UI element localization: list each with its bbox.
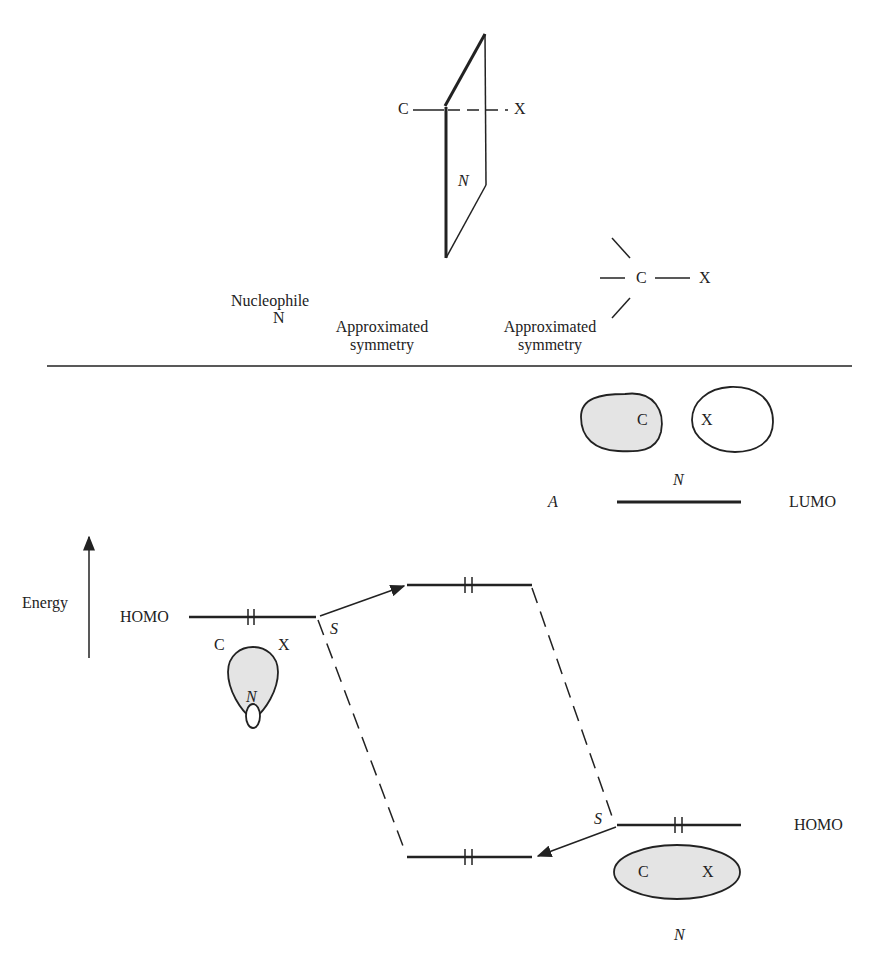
nucleophile-label: Nucleophile <box>231 292 309 310</box>
tetrahedral-center: C <box>636 269 647 287</box>
tetrahedral-leaving: X <box>699 269 711 287</box>
lumo-symmetry-label: N <box>673 471 684 489</box>
lumo-label: LUMO <box>789 493 836 511</box>
lumo-atom-c: C <box>637 411 648 429</box>
lower-interaction-label: S <box>594 810 602 828</box>
upper-interaction-arrow <box>320 586 404 616</box>
left-orbital-label: N <box>246 688 257 706</box>
symmetry-label-2: Approximated symmetry <box>490 318 610 354</box>
mo-diagram-canvas <box>0 0 871 955</box>
left-orbital-atom-c: C <box>214 636 225 654</box>
correlation-lines <box>318 588 614 854</box>
energy-axis-label: Energy <box>22 594 68 612</box>
plane-atom-x: X <box>514 100 526 118</box>
right-homo-orbital <box>614 845 740 899</box>
plane-atom-c: C <box>398 100 409 118</box>
upper-combined-level <box>407 577 532 593</box>
symmetry-plane <box>413 34 508 258</box>
right-homo-label: HOMO <box>794 816 843 834</box>
lumo-orbitals <box>581 387 773 452</box>
nucleophile-symbol: N <box>273 309 285 327</box>
lower-interaction-arrow <box>538 827 616 856</box>
lumo-atom-x: X <box>701 411 713 429</box>
right-homo-atom-x: X <box>702 863 714 881</box>
lower-combined-level <box>407 849 532 865</box>
symmetry-label-1: Approximated symmetry <box>322 318 442 354</box>
left-orbital-atom-x: X <box>278 636 290 654</box>
right-homo-symmetry-label: N <box>674 926 685 944</box>
plane-label: N <box>458 172 469 190</box>
upper-interaction-label: S <box>330 620 338 638</box>
lumo-type-label: A <box>548 493 558 511</box>
left-homo-level <box>189 609 316 625</box>
left-homo-label: HOMO <box>120 608 169 626</box>
right-homo-atom-c: C <box>638 863 649 881</box>
right-homo-level <box>617 817 741 833</box>
